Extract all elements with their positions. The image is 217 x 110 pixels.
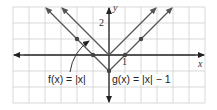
g-label: g(x) = |x| − 1 <box>111 74 172 85</box>
coordinate-graph <box>0 0 217 110</box>
y-axis-label: y <box>113 2 117 13</box>
annotation-arrow <box>70 41 89 72</box>
point-g-neg2-1 <box>75 37 79 41</box>
x-tick-label: 1 <box>122 56 127 67</box>
x-axis-label: x <box>198 58 202 69</box>
f-label: f(x) = |x| <box>47 74 87 85</box>
y-tick-label: 2 <box>99 17 104 28</box>
point-g-0-neg1 <box>107 69 111 73</box>
point-g-neg1-0 <box>91 53 95 57</box>
point-g-2-1 <box>139 37 143 41</box>
